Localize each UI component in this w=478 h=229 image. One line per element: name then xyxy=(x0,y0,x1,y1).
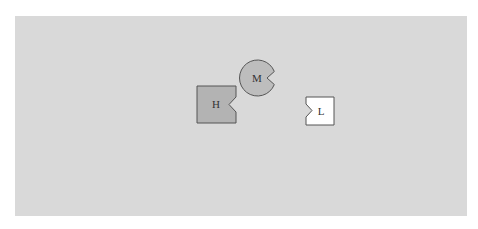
diagram-stage: H M L xyxy=(0,0,478,229)
shape-l-label: L xyxy=(318,105,325,117)
shape-h: H xyxy=(197,86,236,123)
shape-l: L xyxy=(306,97,334,125)
shape-h-label: H xyxy=(212,98,220,110)
shape-m-label: M xyxy=(252,72,262,84)
shape-m: M xyxy=(240,60,275,96)
